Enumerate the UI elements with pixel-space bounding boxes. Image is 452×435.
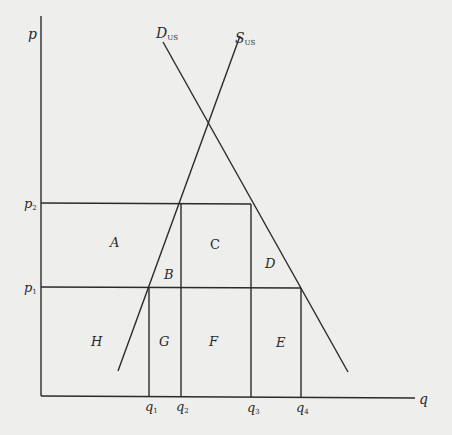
p1-line	[41, 287, 301, 288]
region-e-label: E	[275, 335, 286, 350]
demand-curve	[163, 42, 348, 372]
region-g-label: G	[159, 334, 169, 349]
region-c-label: C	[210, 237, 220, 252]
region-d-label: D	[264, 256, 276, 271]
q3-label: q3	[247, 400, 260, 416]
p1-label: p1	[24, 280, 37, 296]
p2-label: p2	[24, 196, 37, 212]
supply-demand-diagram: p q DUS SUS p2 p1 q1 q2 q3 q4 A B C D E …	[0, 0, 452, 435]
q2-label: q2	[176, 399, 189, 415]
x-axis-label: q	[419, 391, 428, 407]
supply-label: SUS	[235, 30, 255, 47]
region-a-label: A	[109, 235, 119, 250]
region-h-label: H	[90, 334, 103, 349]
demand-label: DUS	[155, 25, 178, 42]
y-axis-label: p	[28, 26, 37, 42]
region-b-label: B	[163, 267, 174, 282]
x-axis	[41, 396, 415, 398]
region-f-label: F	[208, 334, 219, 349]
q1-label: q1	[145, 399, 158, 415]
q4-label: q4	[296, 400, 309, 416]
p2-line	[41, 203, 251, 204]
